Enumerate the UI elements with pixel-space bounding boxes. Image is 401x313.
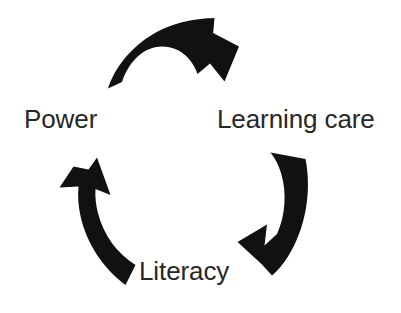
- cycle-node-label-learning-care: Learning care: [217, 106, 375, 132]
- arrow-top-power-to-learning-care: [108, 18, 239, 89]
- cycle-node-label-literacy: Literacy: [139, 258, 229, 284]
- arrow-left-literacy-to-power: [60, 158, 136, 286]
- arrow-right-learning-care-to-literacy: [238, 153, 308, 276]
- cycle-diagram: Learning care Literacy Power: [0, 0, 401, 313]
- cycle-node-label-power: Power: [24, 106, 97, 132]
